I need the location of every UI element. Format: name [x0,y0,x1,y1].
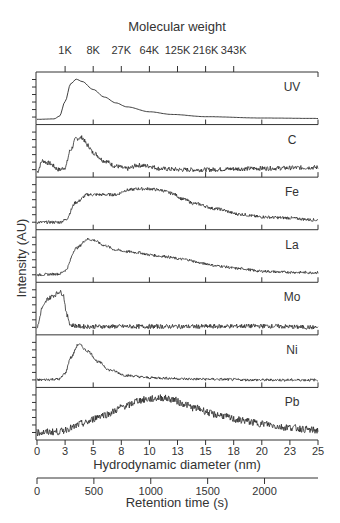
panel-label: La [285,238,299,252]
top-tick-label: 1K [58,44,72,56]
panel-ni: Ni [32,335,318,388]
x-axis-ticks: 035810131518202325 [34,440,324,457]
top-tick-label: 8K [86,44,100,56]
x-tick-label: 23 [284,445,296,457]
panel-label: C [288,133,297,147]
panels: UVCFeLaMoNiPb [32,72,318,440]
x-tick-label: 18 [228,445,240,457]
x-tick-label: 25 [312,445,324,457]
panel-la: La [32,230,318,283]
x-axis-title: Hydrodynamic diameter (nm) [93,457,261,472]
panel-label: Pb [285,395,300,409]
panel-label: UV [284,80,301,94]
stacked-intensity-chart: Molecular weight 1K8K27K64K125K216K343K … [0,0,340,523]
top-tick-label: 216K [193,44,219,56]
top-tick-label: 343K [221,44,247,56]
panel-mo: Mo [32,282,318,335]
x-tick-label: 3 [62,445,68,457]
panel-fe: Fe [32,177,318,230]
series-line-uv [37,79,318,119]
panel-label: Ni [286,343,297,357]
top-axis-ticks: 1K8K27K64K125K216K343K [58,44,247,72]
retention-tick-label: 500 [85,485,103,497]
panel-label: Mo [284,290,301,304]
panel-c: C [32,125,318,178]
panel-pb: Pb [32,387,318,440]
series-line-c [37,136,318,173]
retention-axis-title: Retention time (s) [126,495,229,510]
top-tick-label: 64K [140,44,160,56]
x-tick-label: 5 [90,445,96,457]
series-line-mo [37,290,318,329]
top-tick-label: 125K [165,44,191,56]
x-tick-label: 0 [34,445,40,457]
top-tick-label: 27K [112,44,132,56]
retention-tick-label: 0 [34,485,40,497]
series-line-ni [37,344,318,382]
retention-tick-label: 2000 [252,485,276,497]
series-line-la [37,238,318,276]
series-line-fe [37,187,318,223]
panel-label: Fe [285,185,299,199]
series-line-pb [37,395,318,436]
x-tick-label: 8 [118,445,124,457]
y-axis-title: Intensity (AU) [14,219,29,298]
x-tick-label: 10 [143,445,155,457]
panel-uv: UV [32,72,318,125]
top-axis-title: Molecular weight [128,19,226,34]
x-tick-label: 13 [171,445,183,457]
x-tick-label: 20 [256,445,268,457]
x-tick-label: 15 [199,445,211,457]
